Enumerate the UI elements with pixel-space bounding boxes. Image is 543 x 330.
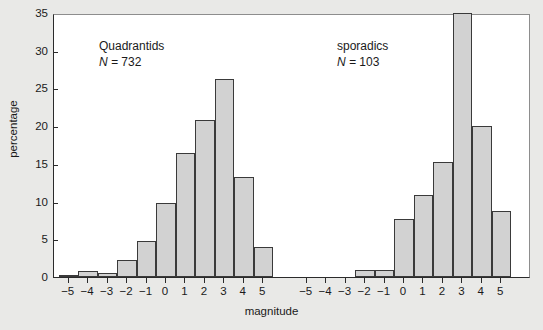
panel-count-value-quadrantids: 732: [121, 55, 141, 69]
x-tick-mark: [442, 278, 443, 283]
histogram-bar: [414, 195, 433, 277]
histogram-bar: [433, 162, 452, 277]
panel-annotation-sporadics: sporadics N = 103: [337, 38, 388, 70]
x-tick-mark: [184, 278, 185, 283]
histogram-bar: [234, 177, 253, 277]
histogram-bar: [472, 126, 491, 277]
histogram-bar: [453, 13, 472, 277]
histogram-bar: [117, 260, 136, 277]
histogram-bar: [215, 79, 234, 277]
y-tick-label: 35: [35, 8, 48, 19]
histogram-bar: [355, 270, 374, 277]
x-tick-mark: [204, 278, 205, 283]
x-tick-mark: [325, 278, 326, 283]
x-tick-mark: [306, 278, 307, 283]
y-tick-label: 20: [35, 121, 48, 132]
x-tick-label: 5: [489, 285, 511, 297]
histogram-bar: [78, 271, 97, 277]
panel-count-sporadics: N = 103: [337, 54, 388, 70]
panel-annotation-quadrantids: Quadrantids N = 732: [99, 38, 164, 70]
x-axis-title: magnitude: [0, 305, 543, 317]
x-tick-mark: [461, 278, 462, 283]
panel-count-value-sporadics: 103: [359, 55, 379, 69]
y-tick-mark: [53, 203, 58, 204]
y-tick-label: 15: [35, 159, 48, 170]
panel-count-quadrantids: N = 732: [99, 54, 164, 70]
y-tick-label: 10: [35, 197, 48, 208]
histogram-bar: [394, 219, 413, 277]
x-tick-mark: [165, 278, 166, 283]
x-tick-mark: [384, 278, 385, 283]
x-tick-mark: [345, 278, 346, 283]
x-tick-label: 5: [251, 285, 273, 297]
x-tick-mark: [481, 278, 482, 283]
y-tick-mark: [53, 52, 58, 53]
histogram-bar: [492, 211, 511, 277]
y-tick-label: 0: [42, 272, 48, 283]
x-tick-mark: [422, 278, 423, 283]
histogram-bar: [195, 120, 214, 277]
histogram-bar: [137, 241, 156, 277]
x-tick-mark: [107, 278, 108, 283]
x-tick-mark: [223, 278, 224, 283]
y-tick-label: 5: [42, 234, 48, 245]
x-tick-mark: [87, 278, 88, 283]
x-tick-mark: [126, 278, 127, 283]
histogram-bar: [254, 247, 273, 277]
meteor-magnitude-histogram-figure: 05101520253035 percentage Quadrantids N …: [0, 0, 543, 330]
y-tick-mark: [53, 240, 58, 241]
x-tick-mark: [364, 278, 365, 283]
histogram-bar: [98, 273, 117, 277]
y-tick-mark: [53, 165, 58, 166]
x-tick-mark: [243, 278, 244, 283]
y-tick-mark: [53, 89, 58, 90]
panel-count-label-sporadics: N =: [337, 55, 356, 69]
x-tick-mark: [146, 278, 147, 283]
x-tick-mark: [68, 278, 69, 283]
panel-label-sporadics: sporadics: [337, 38, 388, 54]
x-tick-mark: [262, 278, 263, 283]
histogram-bar: [375, 270, 394, 277]
y-tick-label: 30: [35, 46, 48, 57]
y-tick-label: 25: [35, 83, 48, 94]
x-tick-mark: [500, 278, 501, 283]
histogram-bar: [59, 275, 78, 277]
panel-label-quadrantids: Quadrantids: [99, 38, 164, 54]
y-axis-title: percentage: [7, 74, 19, 184]
histogram-bar: [176, 153, 195, 277]
y-tick-mark: [53, 127, 58, 128]
histogram-bar: [156, 203, 175, 277]
panel-count-label-quadrantids: N =: [99, 55, 118, 69]
x-tick-mark: [403, 278, 404, 283]
